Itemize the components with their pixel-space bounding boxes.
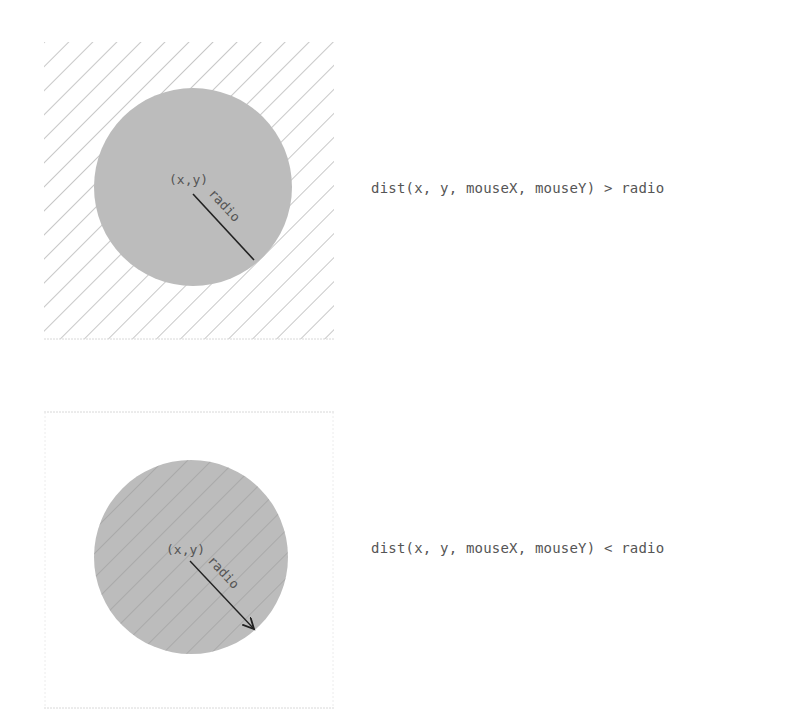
diagram-inside: (x,y) radio (44, 411, 336, 711)
outside-circle-figure: (x,y) radio (44, 42, 336, 342)
formula-outside: dist(x, y, mouseX, mouseY) > radio (371, 180, 664, 196)
inside-circle-figure: (x,y) radio (44, 411, 336, 711)
formula-inside: dist(x, y, mouseX, mouseY) < radio (371, 540, 664, 556)
center-label: (x,y) (166, 542, 205, 557)
center-label: (x,y) (169, 172, 208, 187)
diagram-outside: (x,y) radio (44, 42, 336, 342)
circle (94, 88, 292, 286)
